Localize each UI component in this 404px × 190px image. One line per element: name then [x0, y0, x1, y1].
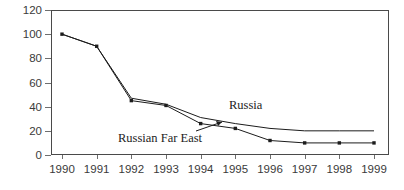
data-point-marker [130, 99, 133, 102]
data-point-marker [234, 127, 237, 130]
series-label-russia: Russia [229, 98, 262, 113]
data-point-marker [95, 45, 98, 48]
data-point-marker [303, 141, 306, 144]
series-layer [0, 0, 404, 190]
data-point-marker [164, 104, 167, 107]
data-point-marker [268, 139, 271, 142]
series-label-russian-far-east: Russian Far East [118, 131, 202, 146]
data-point-marker [60, 32, 63, 35]
data-point-marker [338, 141, 341, 144]
chart-figure: 120100806040200 199019911992199319941995… [0, 0, 404, 190]
series-line-russian-far-east [62, 34, 374, 143]
series-line-russia [62, 34, 374, 131]
data-point-marker [199, 122, 202, 125]
data-point-marker [372, 141, 375, 144]
